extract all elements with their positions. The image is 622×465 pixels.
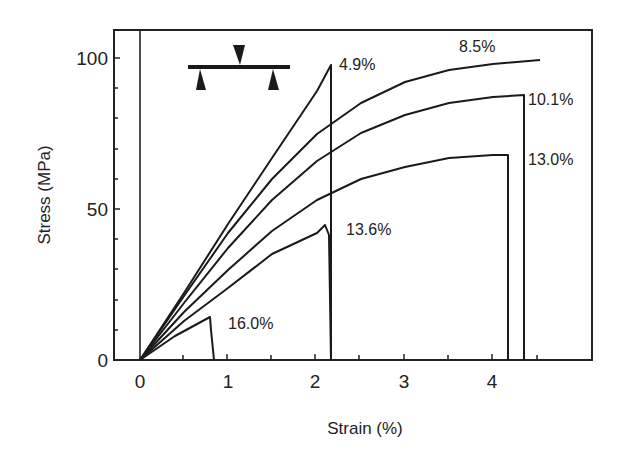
- x-tick-labels: 0 1 2 3 4: [135, 371, 498, 392]
- svg-text:0: 0: [97, 350, 108, 371]
- x-axis-label: Strain (%): [327, 419, 403, 438]
- svg-text:4: 4: [487, 371, 498, 392]
- svg-text:13.6%: 13.6%: [346, 221, 391, 238]
- svg-text:50: 50: [87, 199, 108, 220]
- svg-text:16.0%: 16.0%: [228, 315, 273, 332]
- svg-text:1: 1: [223, 371, 234, 392]
- curve-13-0: [140, 155, 508, 360]
- svg-text:13.0%: 13.0%: [528, 151, 573, 168]
- svg-text:4.9%: 4.9%: [339, 56, 375, 73]
- curve-16-0: [140, 317, 214, 360]
- svg-text:3: 3: [399, 371, 410, 392]
- three-point-bending-icon: [188, 45, 290, 90]
- y-tick-labels: 0 50 100: [76, 48, 108, 371]
- series-labels: 4.9% 8.5% 10.1% 13.0% 13.6% 16.0%: [228, 38, 573, 332]
- stress-strain-chart: 0 50 100 0 1 2 3 4 Strain (%) Stress (MP…: [0, 0, 622, 465]
- curves: [140, 60, 540, 360]
- svg-text:100: 100: [76, 48, 108, 69]
- y-axis-label: Stress (MPa): [35, 145, 54, 244]
- svg-text:10.1%: 10.1%: [528, 91, 573, 108]
- svg-text:2: 2: [310, 371, 321, 392]
- curve-8-5: [140, 60, 540, 360]
- svg-text:0: 0: [135, 371, 146, 392]
- svg-text:8.5%: 8.5%: [459, 38, 495, 55]
